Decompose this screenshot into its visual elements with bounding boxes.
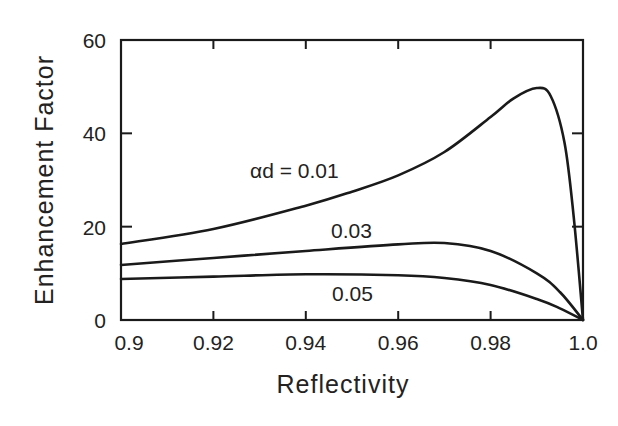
x-tick-labels: 0.90.920.940.960.981.0 xyxy=(114,331,597,354)
enhancement-factor-chart: 0.90.920.940.960.981.0 0204060 Reflectiv… xyxy=(0,0,618,426)
x-tick-label: 0.96 xyxy=(378,331,419,354)
y-tick-labels: 0204060 xyxy=(83,29,106,332)
y-tick-label: 40 xyxy=(83,122,106,145)
x-tick-label: 0.92 xyxy=(193,331,234,354)
x-tick-label: 0.98 xyxy=(470,331,511,354)
x-axis-title: Reflectivity xyxy=(277,370,410,398)
x-tick-label: 0.94 xyxy=(285,331,326,354)
label-ad-003: 0.03 xyxy=(331,219,372,242)
y-tick-label: 0 xyxy=(94,309,106,332)
y-tick-label: 60 xyxy=(83,29,106,52)
label-ad-001: αd = 0.01 xyxy=(250,159,339,182)
x-tick-label: 1.0 xyxy=(568,331,597,354)
y-axis-title: Enhancement Factor xyxy=(30,55,58,305)
x-tick-label: 0.9 xyxy=(114,331,143,354)
label-ad-005: 0.05 xyxy=(332,282,373,305)
y-tick-label: 20 xyxy=(83,216,106,239)
